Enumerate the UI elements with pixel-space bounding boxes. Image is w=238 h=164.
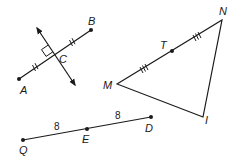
label-E: E: [82, 133, 90, 145]
geometry-diagram: A B C M N I T Q E D 8 8: [0, 0, 238, 164]
diagram-svg: A B C M N I T Q E D 8 8: [0, 0, 238, 164]
label-Q: Q: [19, 144, 28, 156]
right-angle-marker: [42, 45, 53, 56]
perpendicular-line: [37, 28, 75, 85]
point-Q: [21, 138, 25, 142]
label-M: M: [103, 79, 113, 91]
label-B: B: [88, 15, 95, 27]
label-A: A: [19, 84, 27, 96]
point-D: [149, 115, 153, 119]
perpendicular-bisector-figure: A B C: [17, 15, 95, 96]
triangle-MNI: [117, 20, 222, 117]
label-I: I: [205, 114, 208, 126]
label-D: D: [145, 122, 153, 134]
triangle-figure: M N I T: [103, 5, 227, 126]
point-B: [89, 28, 93, 32]
segment-figure: Q E D 8 8: [19, 110, 153, 156]
label-N: N: [219, 5, 227, 17]
length-QE: 8: [54, 121, 60, 132]
point-T: [170, 49, 174, 53]
point-A: [17, 77, 21, 81]
label-T: T: [160, 39, 168, 51]
point-E: [85, 127, 89, 131]
length-ED: 8: [115, 110, 121, 121]
label-C: C: [59, 53, 67, 65]
